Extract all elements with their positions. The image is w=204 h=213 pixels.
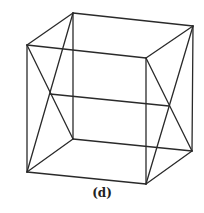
edge-bottom-left xyxy=(27,139,73,172)
diagonal-left-face-2 xyxy=(27,13,73,172)
figure-caption: (d) xyxy=(0,186,204,200)
edge-top-left xyxy=(27,13,73,45)
edge-top-right xyxy=(146,26,193,58)
cube-wireframe-diagram xyxy=(0,0,204,213)
edge-top-back xyxy=(73,13,193,26)
mid-line xyxy=(50,94,169,106)
edge-vertical-back-right xyxy=(192,26,193,151)
edge-bottom-right xyxy=(146,151,192,184)
edge-bottom-front xyxy=(27,172,146,184)
edge-top-front xyxy=(27,45,146,58)
edge-bottom-back xyxy=(73,139,192,151)
